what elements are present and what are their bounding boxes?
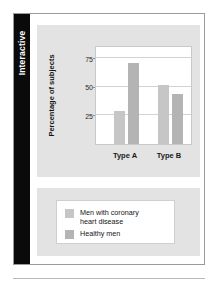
figure-content: Percentage of subjects 255075 Type AType… xyxy=(30,14,204,264)
interactive-tab-label: Interactive xyxy=(17,31,27,76)
x-axis-labels: Type AType B xyxy=(95,151,192,163)
y-axis-title: Percentage of subjects xyxy=(47,46,57,145)
y-tick-label-25: 25 xyxy=(77,113,93,120)
legend-swatch-1 xyxy=(65,209,74,218)
bar-type-b-series-1 xyxy=(158,85,169,144)
legend-label-1: Men with coronary heart disease xyxy=(80,208,139,226)
legend-panel: Men with coronary heart diseaseHealthy m… xyxy=(37,188,200,256)
interactive-tab[interactable]: Interactive xyxy=(14,14,30,264)
bar-group xyxy=(96,47,191,144)
bar-type-b-series-2 xyxy=(172,94,183,144)
legend-item-1: Men with coronary heart disease xyxy=(65,208,139,226)
figure-frame: Interactive Percentage of subjects 25507… xyxy=(13,13,205,265)
y-tick-label-75: 75 xyxy=(77,56,93,63)
legend-item-2: Healthy men xyxy=(65,229,120,239)
x-tick-label-type-a: Type A xyxy=(101,151,149,160)
bottom-divider xyxy=(13,278,205,279)
bar-type-a-series-1 xyxy=(114,111,125,144)
y-axis-ticks: 255075 xyxy=(75,46,93,145)
chart-panel: Percentage of subjects 255075 Type AType… xyxy=(37,25,200,177)
bar-type-a-series-2 xyxy=(128,63,139,144)
plot-area xyxy=(95,46,192,145)
legend-swatch-2 xyxy=(65,230,74,239)
x-tick-label-type-b: Type B xyxy=(145,151,193,160)
legend-label-2: Healthy men xyxy=(80,229,120,238)
y-tick-label-50: 50 xyxy=(77,84,93,91)
legend-box: Men with coronary heart diseaseHealthy m… xyxy=(56,200,175,244)
